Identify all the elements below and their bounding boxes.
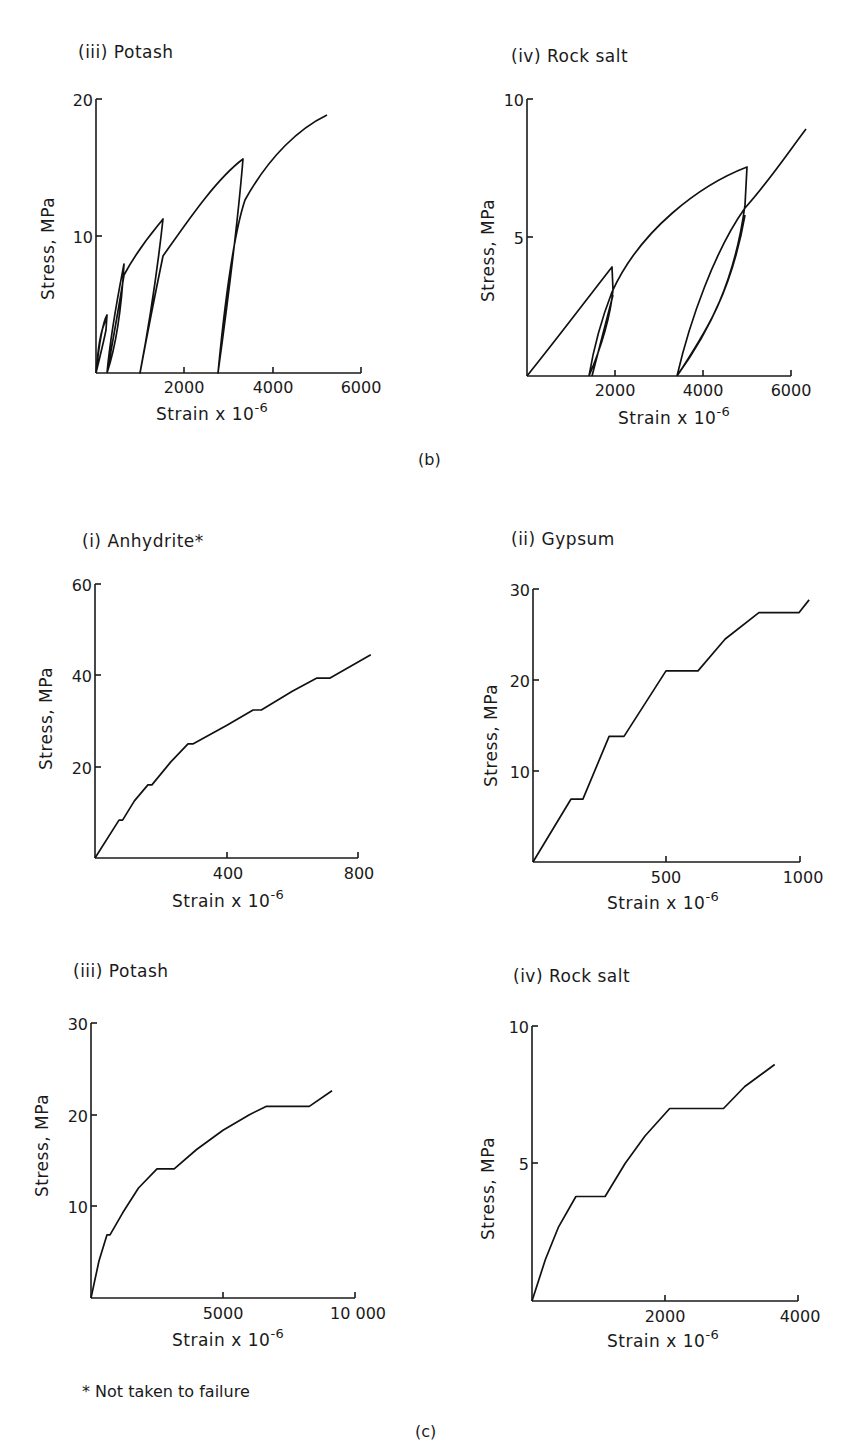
x-tick: 1000 [783, 868, 824, 887]
y-tick: 20 [73, 91, 93, 110]
chart-title: (iv) Rock salt [511, 46, 628, 66]
y-tick: 10 [509, 1018, 529, 1037]
x-tick: 6000 [341, 378, 382, 397]
y-axis-label: Stress, MPa [478, 199, 498, 302]
stress-strain-curve [96, 115, 327, 373]
y-tick: 20 [510, 672, 530, 691]
x-axis-label: Strain x 10-6 [172, 887, 284, 911]
x-tick: 2000 [595, 381, 636, 400]
chart-title: (ii) Gypsum [511, 529, 615, 549]
x-axis-label: Strain x 10-6 [618, 404, 730, 428]
x-tick: 10 000 [330, 1304, 386, 1323]
y-tick: 10 [68, 1198, 88, 1217]
y-axis-label: Stress, MPa [38, 197, 58, 300]
y-tick: 5 [514, 229, 524, 248]
chart-title: (iii) Potash [73, 961, 169, 981]
x-tick: 5000 [203, 1304, 244, 1323]
y-tick: 5 [519, 1155, 529, 1174]
stress-strain-curve [95, 655, 371, 858]
chart-title: (iii) Potash [78, 42, 174, 62]
chart-rocksalt-cyclic: (iv) Rock salt 10 5 2000 4000 6000 Stres… [478, 46, 811, 428]
x-tick: 400 [213, 864, 244, 883]
y-tick: 10 [510, 763, 530, 782]
y-tick: 10 [73, 228, 93, 247]
y-axis-label: Stress, MPa [32, 1094, 52, 1197]
x-tick: 2000 [645, 1307, 686, 1326]
chart-anhydrite: (i) Anhydrite* 60 40 20 400 800 Stress, … [36, 531, 374, 911]
stress-strain-curve [527, 129, 806, 376]
chart-gypsum: (ii) Gypsum 30 20 10 500 1000 Stress, MP… [481, 529, 823, 913]
x-tick: 4000 [780, 1307, 821, 1326]
stress-strain-curve [532, 1065, 775, 1302]
y-tick: 10 [504, 91, 524, 110]
chart-potash-cyclic: (iii) Potash 20 10 2000 4000 6000 Stress… [38, 42, 381, 424]
x-tick: 2000 [164, 378, 205, 397]
chart-title: (iv) Rock salt [513, 966, 630, 986]
stress-strain-curve [533, 600, 809, 862]
x-axis-label: Strain x 10-6 [172, 1326, 284, 1350]
y-axis-label: Stress, MPa [478, 1137, 498, 1240]
x-tick: 4000 [683, 381, 724, 400]
panel-caption-b: (b) [418, 450, 441, 469]
stress-strain-curve [91, 1091, 332, 1298]
x-axis-label: Strain x 10-6 [156, 400, 268, 424]
chart-potash: (iii) Potash 30 20 10 5000 10 000 Stress… [32, 961, 386, 1350]
footnote: * Not taken to failure [82, 1382, 250, 1401]
x-tick: 4000 [253, 378, 294, 397]
y-tick: 30 [68, 1015, 88, 1034]
y-tick: 20 [68, 1107, 88, 1126]
x-tick: 800 [344, 864, 375, 883]
chart-rocksalt: (iv) Rock salt 10 5 2000 4000 Stress, MP… [478, 966, 820, 1351]
y-axis-label: Stress, MPa [481, 684, 501, 787]
y-tick: 30 [510, 581, 530, 600]
y-tick: 60 [72, 576, 92, 595]
y-axis-label: Stress, MPa [36, 667, 56, 770]
chart-title: (i) Anhydrite* [82, 531, 204, 551]
y-tick: 20 [72, 759, 92, 778]
panel-caption-c: (c) [415, 1422, 436, 1441]
x-tick: 500 [651, 868, 682, 887]
x-axis-label: Strain x 10-6 [607, 1327, 719, 1351]
y-tick: 40 [72, 667, 92, 686]
x-axis-label: Strain x 10-6 [607, 889, 719, 913]
x-tick: 6000 [771, 381, 812, 400]
figure: (iii) Potash 20 10 2000 4000 6000 Stress… [0, 0, 861, 1448]
